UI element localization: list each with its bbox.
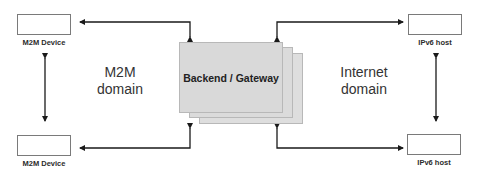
ipv6-host-bottom-right-label: IPv6 host bbox=[394, 158, 474, 167]
arrow-gateway-to-bottom-right-host bbox=[277, 128, 403, 148]
backend-gateway-box: Backend / Gateway bbox=[179, 42, 283, 113]
arrow-gateway-to-bottom-left-device bbox=[80, 128, 190, 148]
m2m-device-bottom-left-label: M2M Device bbox=[4, 159, 84, 168]
internet-domain-label: Internet domain bbox=[329, 64, 399, 98]
m2m-device-top-left bbox=[17, 14, 71, 35]
ipv6-host-top-right bbox=[408, 14, 462, 35]
ipv6-host-top-right-label: IPv6 host bbox=[395, 38, 475, 47]
arrow-gateway-to-top-left-device bbox=[80, 22, 190, 37]
m2m-domain-label: M2M domain bbox=[90, 64, 150, 98]
ipv6-host-bottom-right bbox=[407, 134, 461, 155]
internet-domain-line2: domain bbox=[329, 81, 399, 98]
internet-domain-line1: Internet bbox=[329, 64, 399, 81]
m2m-device-top-left-label: M2M Device bbox=[4, 38, 84, 47]
arrow-gateway-to-top-right-host bbox=[277, 22, 403, 37]
m2m-domain-line2: domain bbox=[90, 81, 150, 98]
backend-gateway-label: Backend / Gateway bbox=[183, 72, 279, 84]
m2m-device-bottom-left bbox=[17, 135, 71, 156]
m2m-domain-line1: M2M bbox=[90, 64, 150, 81]
architecture-diagram: M2M Device M2M Device IPv6 host IPv6 hos… bbox=[0, 0, 477, 180]
